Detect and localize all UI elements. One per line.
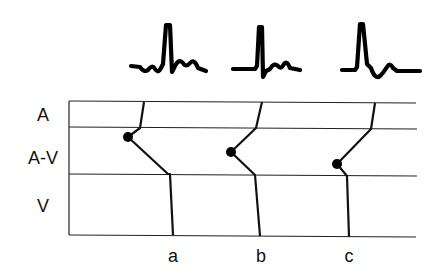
ecg-complex-a-icon bbox=[131, 25, 206, 72]
conduction-path-a bbox=[128, 102, 173, 235]
impulse-origin-dot-b bbox=[226, 147, 236, 157]
conduction-path-b bbox=[231, 102, 262, 236]
ladder-line-a-av bbox=[69, 127, 417, 129]
beat-label-a: a bbox=[168, 246, 179, 266]
ecg-complex-b-icon bbox=[233, 27, 300, 77]
ladder-line-av-v bbox=[69, 174, 417, 176]
tier-label-av: A-V bbox=[28, 148, 58, 168]
beat-label-b: b bbox=[256, 246, 266, 266]
ladder-line-top bbox=[69, 101, 416, 103]
beat-label-c: c bbox=[345, 246, 354, 266]
conduction-path-c bbox=[337, 103, 375, 237]
ladder-diagram: A A-V V a b c bbox=[0, 0, 443, 275]
ladder-line-bottom bbox=[69, 235, 416, 237]
tier-label-v: V bbox=[37, 196, 49, 216]
ecg-complex-c-icon bbox=[342, 24, 420, 77]
impulse-origin-dot-c bbox=[332, 159, 342, 169]
tier-label-a: A bbox=[37, 105, 49, 125]
impulse-origin-dot-a bbox=[123, 132, 133, 142]
